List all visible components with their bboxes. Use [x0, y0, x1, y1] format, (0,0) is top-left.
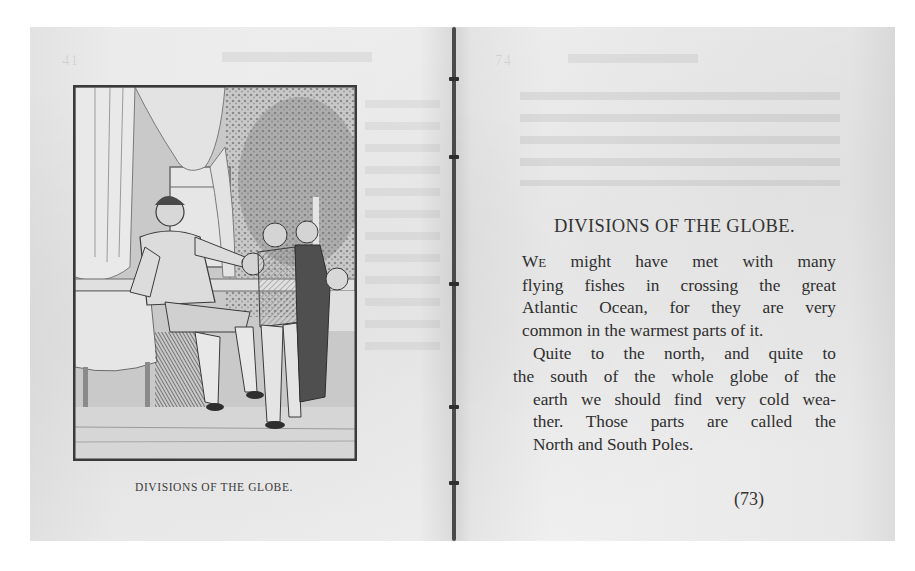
text-line: ther. Those parts are called the	[513, 411, 836, 434]
engraving-scene	[75, 87, 355, 459]
text-line: common in the warmest parts of it.	[513, 320, 836, 343]
illustration-caption: DIVISIONS OF THE GLOBE.	[119, 481, 309, 493]
bleed-through-right-text	[520, 92, 840, 186]
paragraph-2: Quite to the north, and quite to the sou…	[513, 343, 836, 456]
page-number: (73)	[734, 489, 764, 510]
text-line: Quite to the north, and quite to	[513, 343, 836, 366]
spine-stitch	[449, 405, 459, 409]
right-page-body: DIVISIONS OF THE GLOBE. WE might have me…	[513, 216, 836, 456]
bleed-through-right-folio: 74	[495, 52, 512, 69]
bleed-through-right-head	[568, 54, 698, 63]
dropcap-letter: W	[522, 252, 538, 271]
text-line: flying fishes in crossing the great	[513, 275, 836, 298]
spine-stitch	[449, 282, 459, 286]
paragraph-1: WE might have met with many flying fishe…	[513, 251, 836, 342]
spine-stitch	[449, 481, 459, 485]
spine-stitch	[449, 77, 459, 81]
text-line: WE might have met with many	[513, 251, 836, 275]
bleed-through-left-text	[365, 100, 440, 360]
text-line: Atlantic Ocean, for they are very	[513, 297, 836, 320]
bleed-through-left-head	[222, 52, 372, 62]
chapter-heading: DIVISIONS OF THE GLOBE.	[513, 216, 836, 237]
text-line-content: might have met with many	[546, 252, 836, 271]
text-line: North and South Poles.	[513, 434, 836, 457]
text-line: earth we should find very cold wea-	[513, 389, 836, 412]
spine-stitch	[449, 155, 459, 159]
text-line: the south of the whole globe of the	[513, 366, 836, 389]
bleed-through-left-folio: 41	[62, 52, 79, 69]
engraving-illustration	[73, 85, 357, 461]
